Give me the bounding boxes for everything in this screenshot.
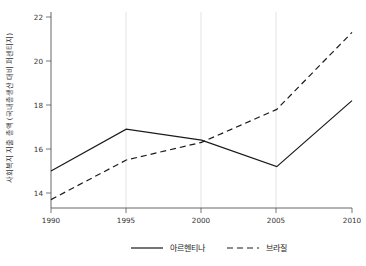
y-axis-title: 사회복지 지출 총액 (국내총생산 대비 퍼센티지) <box>5 33 14 183</box>
x-tick-label-2005: 2005 <box>267 216 285 225</box>
x-tick-label-1990: 1990 <box>42 216 61 225</box>
x-tick-label-2000: 2000 <box>192 216 211 225</box>
line-chart: 사회복지 지출 총액 (국내총생산 대비 퍼센티지) 22 20 18 16 1… <box>0 0 366 266</box>
y-tick-label-22: 22 <box>34 13 43 22</box>
series-line-brazil <box>51 32 352 199</box>
chart-figure: 사회복지 지출 총액 (국내총생산 대비 퍼센티지) 22 20 18 16 1… <box>0 0 366 266</box>
y-tick-marks <box>46 17 51 193</box>
legend-label-brazil: 브라질 <box>266 244 287 253</box>
y-tick-label-14: 14 <box>34 189 44 198</box>
x-tick-marks <box>51 208 352 213</box>
x-tick-label-2010: 2010 <box>343 216 362 225</box>
y-tick-label-20: 20 <box>34 57 44 66</box>
y-tick-label-18: 18 <box>34 101 44 110</box>
y-tick-label-16: 16 <box>34 145 44 154</box>
series-line-argentina <box>51 101 352 171</box>
vertical-gridlines <box>126 12 276 208</box>
legend-label-argentina: 아르헨티나 <box>170 243 206 253</box>
x-tick-label-1995: 1995 <box>117 216 135 225</box>
